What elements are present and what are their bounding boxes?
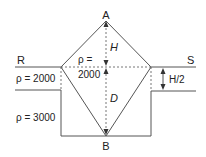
- label-a: A: [102, 9, 110, 21]
- label-half-h: H/2: [169, 74, 185, 85]
- label-b: B: [102, 140, 109, 152]
- half-h-arrow-head-up: [161, 68, 166, 74]
- half-h-arrow-head-down: [161, 84, 166, 90]
- label-d: D: [110, 92, 118, 104]
- label-rho-lower-left: ρ = 3000: [16, 112, 56, 123]
- h-arrow-head-down: [104, 60, 109, 66]
- label-rho-center-2: 2000: [78, 69, 101, 80]
- d-arrow-head-up: [104, 68, 109, 74]
- label-rho-upper-left: ρ = 2000: [16, 73, 56, 84]
- diagram-canvas: A B R S H D H/2 ρ = 2000 ρ = 3000 ρ = 20…: [0, 0, 206, 157]
- label-r: R: [17, 54, 25, 66]
- h-arrow-head-up: [104, 21, 109, 27]
- label-h: H: [110, 41, 118, 53]
- label-rho-center-1: ρ =: [78, 54, 92, 65]
- label-s: S: [187, 54, 194, 66]
